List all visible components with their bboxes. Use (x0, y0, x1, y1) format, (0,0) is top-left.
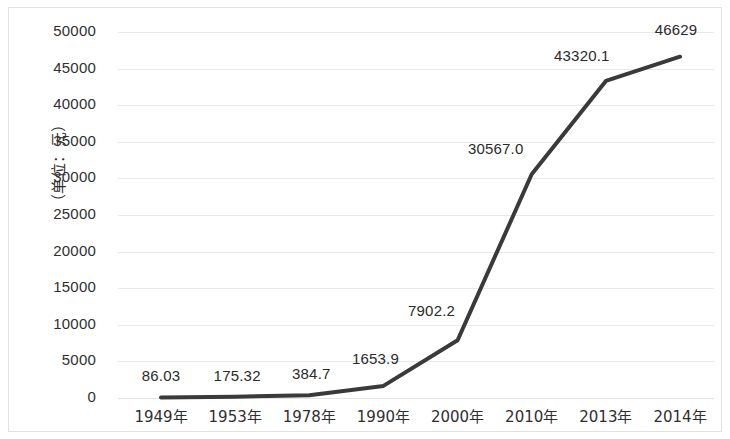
data-point-label: 43320.1 (527, 47, 637, 64)
x-axis-tick-label: 2014年 (635, 405, 725, 426)
data-point-label: 7902.2 (377, 302, 487, 319)
data-point-label: 46629 (621, 21, 730, 38)
data-point-label: 1653.9 (320, 350, 430, 367)
x-axis-ticks: 1949年1953年1978年1990年2000年2010年2013年2014年 (0, 405, 730, 433)
line-chart: （单位：元） 050001000015000200002500030000350… (0, 0, 730, 439)
data-point-label: 384.7 (256, 365, 366, 382)
data-point-label: 30567.0 (441, 140, 551, 157)
data-point-labels: 86.03175.32384.71653.97902.230567.043320… (0, 0, 730, 439)
